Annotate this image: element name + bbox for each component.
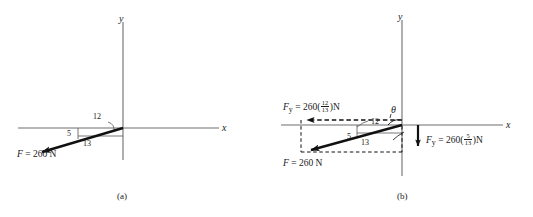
panel-a-force-equals: = (23, 149, 33, 159)
panel-b-y-axis-label: y (398, 12, 402, 22)
panel-a-force-magnitude: 260 (33, 149, 47, 159)
panel-b-y-component-denominator: 13 (464, 139, 473, 147)
panel-b-twelve-leader (357, 121, 368, 127)
figure-vector-canvas (0, 0, 533, 217)
panel-b-x-component-denominator: 13 (321, 106, 330, 114)
panel-b-force-unit: N (316, 158, 323, 168)
panel-b-x-component-label: Fy = 260(1213)N (283, 100, 340, 115)
panel-b-run-label: 12 (371, 118, 379, 126)
panel-b-y-component-numerator: 5 (465, 133, 470, 140)
panel-b-graphics (281, 20, 503, 176)
panel-b-x-component-equals: = (293, 102, 303, 112)
panel-a-x-axis-label: x (222, 123, 226, 133)
panel-a-force-magnitude-label: F = 260 N (17, 150, 56, 160)
panel-a-run-label: 12 (93, 113, 101, 121)
panel-b-x-component-fraction: 1213 (321, 100, 330, 115)
panel-b-y-component-close: )N (473, 135, 483, 145)
panel-a-hypotenuse-label: 13 (83, 140, 91, 148)
panel-b-y-component-fraction: 513 (464, 133, 473, 148)
panel-b-y-component-equals: = (436, 135, 446, 145)
panel-b-x-axis-label: x (506, 120, 510, 130)
panel-b-force-magnitude: 260 (299, 158, 313, 168)
panel-b-force-equals: = (289, 158, 299, 168)
panel-b-caption: (b) (397, 192, 408, 201)
panel-b-x-component-coefficient: 260( (303, 102, 320, 112)
panel-b-x-component-numerator: 12 (321, 100, 330, 107)
panel-b-rise-label: 5 (347, 133, 351, 141)
panel-b-y-component-label: Fy = 260(513)N (426, 133, 483, 148)
panel-b-force-vector (311, 125, 402, 150)
panel-b-hypotenuse-label: 13 (361, 139, 369, 147)
panel-b-x-component-close: )N (330, 102, 340, 112)
panel-a-graphics (18, 22, 219, 160)
panel-b-y-component-coefficient: 260( (446, 135, 463, 145)
panel-a-caption: (a) (117, 192, 127, 201)
panel-b-theta-label: θ (391, 105, 396, 115)
panel-a-force-unit: N (50, 149, 57, 159)
force-vector-figure: y x 12 5 13 F = 260 N (a) y x θ 12 5 13 … (0, 0, 533, 217)
panel-a-rise-label: 5 (67, 130, 71, 138)
panel-a-y-axis-label: y (119, 14, 123, 24)
panel-b-force-magnitude-label: F = 260 N (283, 159, 322, 169)
